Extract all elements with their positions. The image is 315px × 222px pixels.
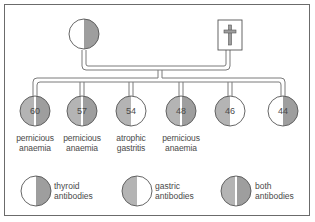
pedigree-connectors <box>33 50 285 96</box>
legend-line-1: gastric <box>155 181 215 191</box>
legend-line-2: antibodies <box>155 191 215 201</box>
child-age-3: 54 <box>121 106 141 116</box>
legend-label-thyroid: thyroid antibodies <box>54 181 114 201</box>
child-age-4: 48 <box>171 106 191 116</box>
condition-line-1: pernicious <box>57 133 107 143</box>
father-symbol <box>218 20 242 50</box>
condition-line-1: pernicious <box>10 133 60 143</box>
legend-label-both: both antibodies <box>255 181 315 201</box>
child-age-2: 57 <box>72 106 92 116</box>
child-condition-4: pernicious anaemia <box>156 133 206 153</box>
legend-symbol-gastric <box>122 176 152 206</box>
condition-line-2: anaemia <box>57 143 107 153</box>
legend-line-1: thyroid <box>54 181 114 191</box>
child-condition-1: pernicious anaemia <box>10 133 60 153</box>
child-condition-2: pernicious anaemia <box>57 133 107 153</box>
condition-line-1: pernicious <box>156 133 206 143</box>
legend-line-1: both <box>255 181 315 191</box>
legend-label-gastric: gastric antibodies <box>155 181 215 201</box>
child-age-5: 46 <box>220 106 240 116</box>
legend-line-2: antibodies <box>54 191 114 201</box>
legend-symbol-thyroid <box>21 176 51 206</box>
child-age-6: 44 <box>273 106 293 116</box>
condition-line-1: atrophic <box>106 133 156 143</box>
condition-line-2: anaemia <box>10 143 60 153</box>
condition-line-2: anaemia <box>156 143 206 153</box>
child-condition-3: atrophic gastritis <box>106 133 156 153</box>
child-age-1: 60 <box>25 106 45 116</box>
legend-line-2: antibodies <box>255 191 315 201</box>
mother-symbol <box>69 19 99 49</box>
condition-line-2: gastritis <box>106 143 156 153</box>
legend-symbol-both <box>221 176 251 206</box>
